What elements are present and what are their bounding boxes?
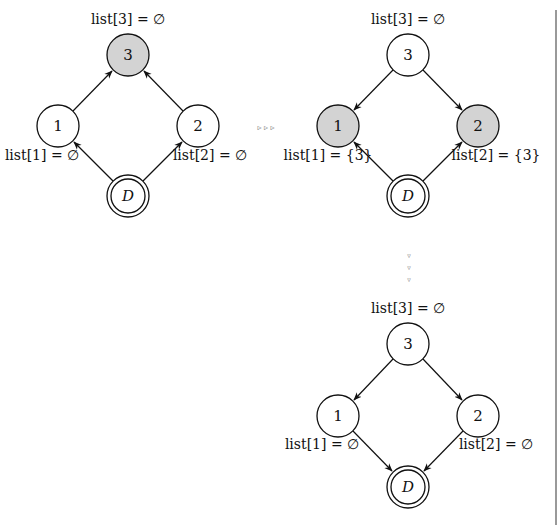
edge-3-to-1 — [354, 359, 393, 400]
diagram-canvas: list[3] = ∅ 3 1 list[1] = ∅ 2 list[2] = … — [0, 0, 559, 525]
list-label-1: list[1] = {3} — [284, 147, 373, 163]
node-D-label: D — [401, 187, 414, 205]
node-D-label: D — [401, 478, 414, 496]
list-label-1: list[1] = ∅ — [285, 436, 359, 452]
list-label-2: list[2] = ∅ — [173, 147, 247, 163]
node-2-label: 2 — [473, 117, 483, 135]
transition-down-arrows: ▿ ▿ ▿ — [407, 252, 411, 284]
node-1-label: 1 — [333, 407, 343, 425]
svg-text:▿: ▿ — [407, 264, 411, 272]
edge-3-to-1 — [354, 70, 393, 110]
list-label-2: list[2] = ∅ — [459, 436, 533, 452]
edge-2-to-D — [424, 431, 463, 471]
edge-3-to-2 — [423, 359, 462, 400]
node-2-label: 2 — [473, 407, 483, 425]
list-label-3: list[3] = ∅ — [91, 11, 165, 27]
list-label-3: list[3] = ∅ — [371, 300, 445, 316]
transition-right-arrows: ▹ ▹ ▹ — [257, 123, 274, 132]
node-2-label: 2 — [193, 117, 203, 135]
edge-D-to-1 — [74, 142, 113, 181]
svg-text:▿: ▿ — [407, 252, 411, 260]
node-1-label: 1 — [333, 117, 343, 135]
list-label-3: list[3] = ∅ — [371, 11, 445, 27]
node-3-label: 3 — [403, 335, 413, 353]
list-label-1: list[1] = ∅ — [5, 147, 79, 163]
diagram-final: list[3] = ∅ 3 1 list[1] = ∅ 2 list[2] = … — [285, 300, 533, 508]
list-label-2: list[2] = {3} — [452, 147, 541, 163]
node-3-label: 3 — [123, 46, 133, 64]
diagram-after-reverse: list[3] = ∅ 3 1 list[1] = {3} 2 list[2] … — [284, 11, 541, 217]
svg-text:▿: ▿ — [407, 276, 411, 284]
node-3-label: 3 — [403, 46, 413, 64]
edge-1-to-3 — [73, 71, 112, 111]
node-1-label: 1 — [53, 117, 63, 135]
edge-3-to-2 — [423, 70, 462, 110]
edge-2-to-3 — [144, 71, 183, 111]
node-D-label: D — [121, 187, 134, 205]
diagram-initial: list[3] = ∅ 3 1 list[1] = ∅ 2 list[2] = … — [5, 11, 247, 217]
